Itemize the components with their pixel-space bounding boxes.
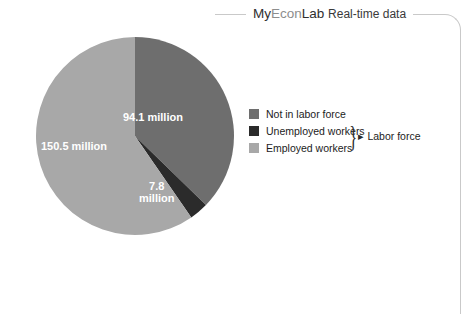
legend-label-employed-workers: Employed workers [266,142,352,154]
header-subtitle: Real-time data [328,7,406,21]
brand-suffix: Lab [302,6,325,21]
slice-label-employed-workers: 150.5 million [41,140,107,153]
brand-mid: Econ [271,6,302,21]
pie-chart: 94.1 million 150.5 million 7.8 million [35,36,235,236]
slice-label-unemployed-line1: 7.8 [139,180,174,192]
legend-swatch-not-in-labor-force [249,109,259,119]
slice-label-unemployed-line2: million [139,192,174,204]
legend-label-not-in-labor-force: Not in labor force [266,108,346,120]
decorative-frame-border [215,14,461,314]
legend-swatch-unemployed-workers [249,126,259,136]
slice-label-unemployed-workers: 7.8 million [139,180,174,204]
legend-group-label: Labor force [367,130,420,142]
pie-chart-svg [35,36,235,236]
brace-pointer-icon: ▸ [358,130,364,143]
brace-icon: } [349,121,357,151]
legend-group-labor-force: } ▸ Labor force [346,118,421,154]
slice-label-not-in-labor-force: 94.1 million [123,111,183,124]
legend-swatch-employed-workers [249,143,259,153]
myeconlab-header: MyEconLab Real-time data [246,5,413,23]
brand-prefix: My [253,6,271,21]
